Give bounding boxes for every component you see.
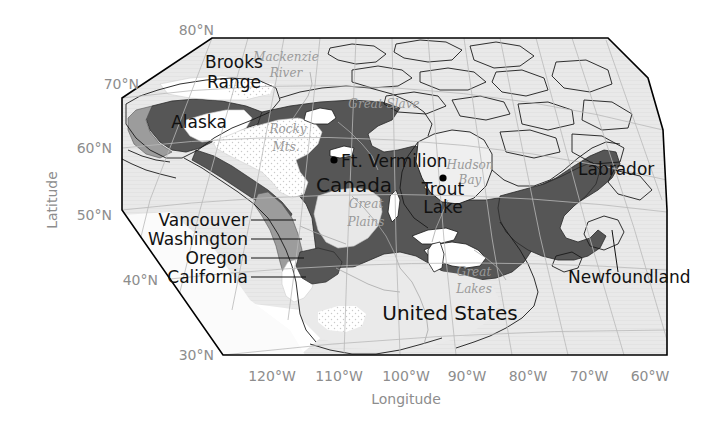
label-alaska: Alaska: [171, 112, 227, 132]
lon-tick-70W: 70°W: [570, 368, 609, 384]
label-trout-lake-1: Trout: [421, 179, 465, 199]
label-brooks-range-1: Brooks: [205, 52, 263, 72]
label-vancouver: Vancouver: [158, 210, 248, 230]
lon-tick-80W: 80°W: [509, 368, 548, 384]
label-ft-vermilion: Ft. Vermilion: [341, 151, 448, 171]
lon-tick-90W: 90°W: [448, 368, 487, 384]
coastal-state-labels: Vancouver Washington Oregon California: [148, 210, 248, 287]
lat-tick-50N: 50°N: [77, 207, 112, 223]
label-rocky-mts-2: Mts.: [271, 140, 299, 154]
map-canvas: 80°N 70°N 60°N 50°N 40°N 30°N Latitude 1…: [0, 0, 719, 421]
label-labrador: Labrador: [578, 159, 654, 179]
label-great-slave: Great Slave: [348, 97, 419, 111]
label-united-states: United States: [382, 301, 517, 325]
lat-tick-60N: 60°N: [77, 140, 112, 156]
city-dot-ft-vermilion: [330, 156, 337, 163]
longitude-axis-title: Longitude: [371, 391, 441, 407]
lon-tick-60W: 60°W: [631, 368, 670, 384]
label-trout-lake-2: Lake: [423, 197, 463, 217]
label-great-lakes-1: Great: [457, 265, 492, 279]
label-great-plains-1: Great: [349, 197, 384, 211]
label-great-plains-2: Plains: [347, 215, 385, 229]
lat-tick-40N: 40°N: [123, 272, 158, 288]
lon-tick-110W: 110°W: [315, 368, 363, 384]
lon-tick-120W: 120°W: [248, 368, 296, 384]
label-washington: Washington: [148, 229, 248, 249]
label-rocky-mts-1: Rocky: [268, 122, 306, 136]
lat-tick-30N: 30°N: [179, 347, 214, 363]
latitude-axis-title: Latitude: [44, 171, 60, 229]
label-great-lakes-2: Lakes: [455, 282, 492, 296]
label-brooks-range-2: Range: [207, 72, 261, 92]
longitude-ticks: 120°W 110°W 100°W 90°W 80°W 70°W 60°W: [248, 368, 669, 384]
lon-tick-100W: 100°W: [382, 368, 430, 384]
label-california: California: [167, 267, 248, 287]
lat-tick-70N: 70°N: [104, 76, 139, 92]
lat-tick-80N: 80°N: [179, 22, 214, 38]
label-canada: Canada: [316, 173, 392, 197]
label-mackenzie-river-2: River: [269, 66, 304, 80]
label-oregon: Oregon: [186, 248, 248, 268]
label-hudson-bay-1: Hudson: [446, 158, 494, 172]
label-newfoundland: Newfoundland: [568, 267, 691, 287]
map-figure: 80°N 70°N 60°N 50°N 40°N 30°N Latitude 1…: [0, 0, 719, 421]
